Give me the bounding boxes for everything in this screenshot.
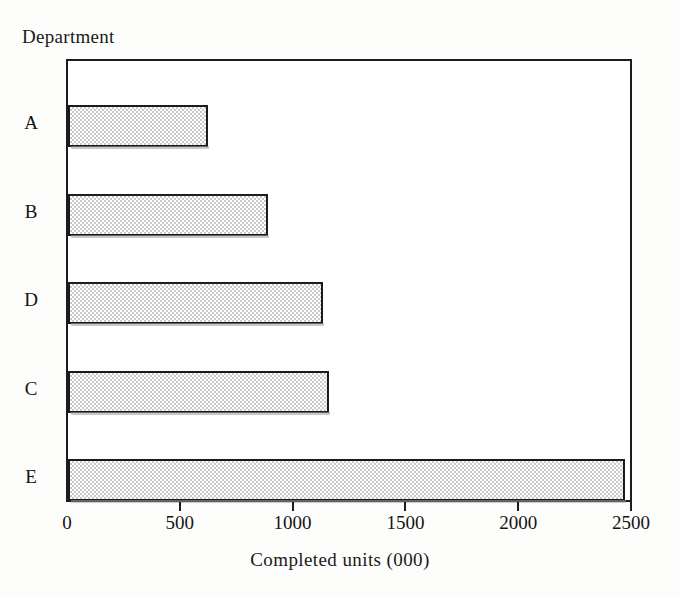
bar-b[interactable]: [68, 194, 268, 236]
category-label-c: C: [2, 378, 60, 400]
category-label-e: E: [2, 466, 60, 488]
x-axis-title: Completed units (000): [0, 549, 680, 571]
x-axis-tick: [292, 502, 294, 511]
chart-page: Department Completed units (000) ABDCE05…: [0, 0, 680, 598]
x-axis-tick: [517, 502, 519, 511]
x-axis-tick-label: 1500: [386, 512, 424, 534]
y-axis-title: Department: [22, 26, 115, 48]
x-axis-tick-label: 2500: [612, 512, 650, 534]
category-label-d: D: [2, 289, 60, 311]
bar-e[interactable]: [68, 459, 625, 501]
plot-area: [66, 59, 632, 502]
x-axis-tick-label: 0: [62, 512, 72, 534]
x-axis-tick-label: 2000: [499, 512, 537, 534]
bar-d[interactable]: [68, 282, 323, 324]
bar-a[interactable]: [68, 105, 208, 147]
x-axis-tick-label: 500: [166, 512, 195, 534]
x-axis-tick: [179, 502, 181, 511]
x-axis-tick: [630, 502, 632, 511]
x-axis-tick: [404, 502, 406, 511]
bar-c[interactable]: [68, 371, 329, 413]
x-axis-tick-label: 1000: [274, 512, 312, 534]
category-label-a: A: [2, 112, 60, 134]
category-label-b: B: [2, 201, 60, 223]
